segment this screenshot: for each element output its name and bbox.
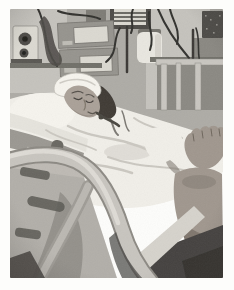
icu-patient-photo <box>0 0 234 290</box>
vignette <box>10 9 223 278</box>
page <box>0 0 234 290</box>
photo-canvas <box>0 0 234 290</box>
photo-area <box>7 6 227 284</box>
